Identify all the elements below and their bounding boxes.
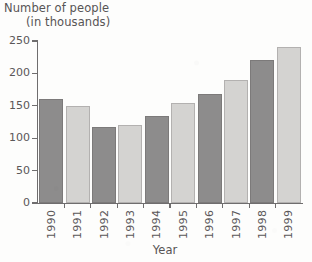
bar-1997 [224,80,248,203]
y-tick-label-0: 0 [0,197,30,208]
bar-1993 [118,125,142,203]
x-tick-6 [196,203,197,208]
x-tick-9 [275,203,276,208]
x-tick-4 [143,203,144,208]
bar-chart: Number of people (in thousands) 05010015… [0,0,312,262]
bar-1996 [198,94,222,204]
plot-area: 050100150200250 199019911992199319941995… [0,0,312,262]
y-tick-label-200: 200 [0,67,30,78]
x-tick-2 [90,203,91,208]
bar-1999 [277,47,301,203]
y-tick-label-50: 50 [0,165,30,176]
x-tick-3 [117,203,118,208]
x-tick-1 [64,203,65,208]
x-tick-7 [222,203,223,208]
bar-1992 [92,127,116,203]
x-axis-title: Year [0,243,312,257]
bar-1990 [39,99,63,203]
bar-1995 [171,103,195,203]
x-tick-8 [249,203,250,208]
x-tick-5 [169,203,170,208]
y-tick-label-100: 100 [0,132,30,143]
bar-1998 [250,60,274,203]
y-tick-label-250: 250 [0,35,30,46]
bar-1994 [145,116,169,203]
bars-layer [38,41,302,203]
bar-1991 [66,106,90,203]
y-tick-label-150: 150 [0,100,30,111]
